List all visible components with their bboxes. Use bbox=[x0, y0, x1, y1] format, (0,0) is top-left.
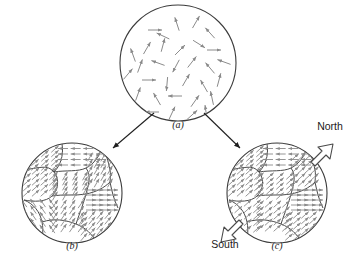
south-label: South bbox=[211, 238, 239, 250]
north-label: North bbox=[317, 120, 343, 132]
panel-b-label: (b) bbox=[66, 240, 78, 252]
magnetic-domain-diagram: (a) (b) bbox=[0, 0, 358, 271]
panel-a bbox=[120, 5, 236, 121]
panel-a-label: (a) bbox=[172, 119, 184, 131]
panel-c-label: (c) bbox=[271, 240, 283, 252]
figure-container: (a) (b) bbox=[0, 0, 358, 271]
